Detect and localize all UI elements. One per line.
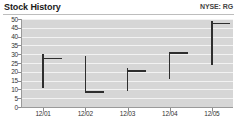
gridline <box>22 63 233 64</box>
page-title: Stock History <box>4 2 61 12</box>
price-bar-high-low-line <box>169 52 171 78</box>
widget-header: Stock History NYSE: RG <box>0 0 237 16</box>
y-axis-tick-label: 45 <box>11 24 18 31</box>
x-axis-tick-label: 12/05 <box>204 110 219 117</box>
gridline <box>22 19 233 20</box>
stock-history-chart: 50454035302520151050 12/0112/0212/0312/0… <box>0 16 237 126</box>
price-bar-high-low-line <box>211 21 213 65</box>
header-divider <box>3 14 234 15</box>
gridline <box>22 54 233 55</box>
gridline <box>22 98 233 99</box>
plot-area <box>22 19 233 107</box>
x-axis-tick-label: 12/02 <box>78 110 93 117</box>
y-axis-tick-label: 15 <box>11 77 18 84</box>
y-axis-tick-label: 25 <box>11 60 18 67</box>
y-axis-tick-label: 10 <box>11 86 18 93</box>
gridline <box>22 37 233 38</box>
ticker-symbol-label: NYSE: RG <box>200 3 233 10</box>
y-axis-tick-label: 50 <box>11 16 18 23</box>
price-bar-close-tick <box>86 91 104 93</box>
y-axis-labels: 50454035302520151050 <box>0 16 20 110</box>
x-axis-tick-label: 12/01 <box>35 110 50 117</box>
y-axis-tick-label: 30 <box>11 51 18 58</box>
price-bar-high-low-line <box>127 68 129 91</box>
x-axis-tick-label: 12/03 <box>120 110 135 117</box>
y-axis-tick-label: 40 <box>11 33 18 40</box>
price-bar-close-tick <box>44 58 62 60</box>
gridline <box>22 28 233 29</box>
x-axis-tick-label: 12/04 <box>162 110 177 117</box>
x-axis-labels: 12/0112/0212/0312/0412/05 <box>22 110 233 122</box>
y-axis-tick-label: 35 <box>11 42 18 49</box>
price-bar-close-tick <box>213 23 231 25</box>
stock-history-widget: Stock History NYSE: RG 50454035302520151… <box>0 0 237 126</box>
y-axis-tick-label: 20 <box>11 68 18 75</box>
price-bar-high-low-line <box>85 56 87 93</box>
price-bar-close-tick <box>170 52 188 54</box>
price-bar-close-tick <box>128 70 146 72</box>
gridline <box>22 45 233 46</box>
